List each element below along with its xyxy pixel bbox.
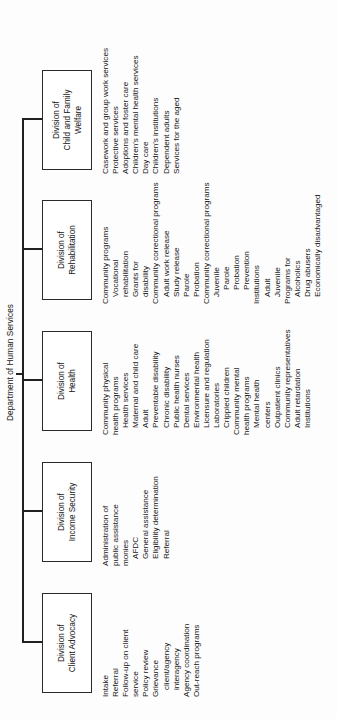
function-item: Intake [101, 571, 111, 697]
function-item: Referral [111, 571, 121, 697]
function-item: Dental services [182, 309, 192, 435]
branch-line-rehabilitation [22, 248, 42, 250]
division-label-line1: Division of [57, 362, 66, 400]
division-label-child-family-welfare: Division of Child and Family Welfare [51, 90, 84, 151]
function-item: AFDC [131, 440, 141, 566]
function-item: Alcoholics [293, 178, 303, 304]
function-item: Public health nurses [172, 309, 182, 435]
function-item: Children's mental health services [131, 48, 141, 174]
function-item: Economically disadvantaged [313, 178, 323, 304]
division-label-line1: Division of [57, 624, 66, 662]
function-item: Crippled children [222, 309, 232, 435]
function-item: Juvenile [212, 178, 222, 304]
function-item: Health services [121, 309, 131, 435]
function-item: Outpatient clinics [273, 309, 283, 435]
function-item: service [131, 571, 141, 697]
function-item: Maternal and child care [131, 309, 141, 435]
function-item: Day care [141, 48, 151, 174]
function-item: Follow-up on client [121, 571, 131, 697]
division-label-line1: Division of [52, 101, 61, 139]
function-item: public assistance [111, 440, 121, 566]
division-label-line1: Division of [57, 493, 66, 531]
function-item: Dependent adults [162, 48, 172, 174]
function-item: Adult retardation [293, 309, 303, 435]
function-item: Adult [263, 178, 273, 304]
division-label-line2: Rehabilitation [68, 225, 77, 275]
function-item: Agency coordination [182, 571, 192, 697]
function-item: rehabilitation [121, 178, 131, 304]
trunk-line [22, 119, 24, 643]
function-list-rehabilitation: Community programsVocationalrehabilitati… [101, 178, 323, 304]
function-item: Grievance [151, 571, 161, 697]
branch-line-health [22, 379, 42, 381]
function-item: Protective services [111, 48, 121, 174]
function-item: client/agency [162, 571, 172, 697]
function-item: Chronic disability [162, 309, 172, 435]
function-item: Community mental [232, 309, 242, 435]
division-label-line2: Child and Family [63, 90, 72, 151]
function-item: Adult work release [162, 178, 172, 304]
function-item: Drug abusers [303, 178, 313, 304]
function-item: Community correctional programs [151, 178, 161, 304]
function-item: Adult [141, 309, 151, 435]
branch-line-client-advocacy [22, 641, 42, 643]
function-item: Institutions [252, 178, 262, 304]
function-item: Laboratories [212, 309, 222, 435]
function-item: Out-reach programs [192, 571, 202, 697]
function-item: Probation [232, 178, 242, 304]
function-item: Environmental health [192, 309, 202, 435]
branch-line-income-security [22, 510, 42, 512]
function-item: Prevention [242, 178, 252, 304]
function-item: Grants for [131, 178, 141, 304]
function-item: Community programs [101, 178, 111, 304]
division-label-line2: Health [68, 369, 77, 393]
function-item: Vocational [111, 178, 121, 304]
function-item: monies [121, 440, 131, 566]
page-title: Department of Human Services [6, 304, 15, 421]
function-item: Programs for [283, 178, 293, 304]
rotated-page-canvas: Department of Human Services Division of… [0, 0, 337, 719]
division-label-income-security: Division of Income Security [56, 483, 78, 542]
function-item: Services for the aged [172, 48, 182, 174]
org-chart: Department of Human Services Division of… [0, 0, 337, 719]
function-item: Adoptions and foster care [121, 48, 131, 174]
division-box-rehabilitation[interactable]: Division of Rehabilitation [42, 200, 92, 300]
function-item: Preventable disability [151, 309, 161, 435]
division-label-health: Division of Health [56, 362, 78, 400]
division-box-income-security[interactable]: Division of Income Security [42, 462, 92, 562]
function-item: Administration of [101, 440, 111, 566]
function-item: Community correctional programs [202, 178, 212, 304]
function-item: Parole [182, 178, 192, 304]
division-box-health[interactable]: Division of Health [42, 331, 92, 431]
function-item: Eligibility determination [151, 440, 161, 566]
function-item: Licensure and regulation [202, 309, 212, 435]
function-item: centers [263, 309, 273, 435]
function-item: Referral [162, 440, 172, 566]
function-item: Institutions [303, 309, 313, 435]
function-list-health: Community physicalhealth programsHealth … [101, 309, 313, 435]
division-box-client-advocacy[interactable]: Division of Client Advocacy [42, 593, 92, 693]
branch-line-child-family [22, 118, 42, 120]
function-item: Mental health [252, 309, 262, 435]
division-label-rehabilitation: Division of Rehabilitation [56, 225, 78, 275]
function-list-client-advocacy: IntakeReferralFollow-up on clientservice… [101, 571, 202, 697]
function-item: Probation [192, 178, 202, 304]
function-item: health programs [242, 309, 252, 435]
function-item: health programs [111, 309, 121, 435]
function-item: General assistance [141, 440, 151, 566]
function-item: Casework and group work services [101, 48, 111, 174]
division-label-line2: Income Security [68, 483, 77, 542]
function-item: Parole [222, 178, 232, 304]
function-list-child-family-welfare: Casework and group work servicesProtecti… [101, 48, 182, 174]
function-list-income-security: Administration ofpublic assistancemonies… [101, 440, 172, 566]
division-label-client-advocacy: Division of Client Advocacy [56, 614, 78, 672]
function-item: interagency [172, 571, 182, 697]
function-item: Study release [172, 178, 182, 304]
division-box-child-family-welfare[interactable]: Division of Child and Family Welfare [42, 70, 92, 170]
function-item: Children's institutions [151, 48, 161, 174]
division-label-line1: Division of [57, 231, 66, 269]
division-label-line3: Welfare [74, 106, 83, 134]
division-label-line2: Client Advocacy [68, 614, 77, 672]
function-item: disability [141, 178, 151, 304]
function-item: Policy review [141, 571, 151, 697]
